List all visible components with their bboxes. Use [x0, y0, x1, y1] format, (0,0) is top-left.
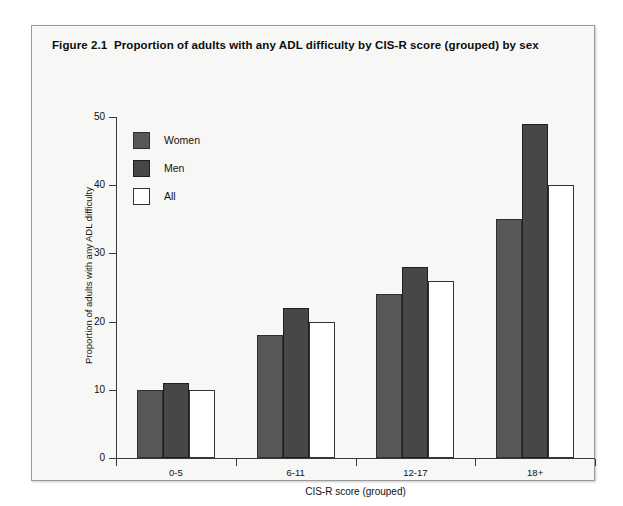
x-axis-category-label: 0-5: [116, 468, 236, 478]
bar-men-0-5: [163, 383, 189, 458]
x-axis-category-label: 12-17: [356, 468, 476, 478]
bar-all-0-5: [189, 390, 215, 458]
legend-label-all: All: [164, 191, 176, 202]
legend-item-all: All: [133, 182, 200, 210]
legend-item-women: Women: [133, 126, 200, 154]
y-axis-tick: [109, 117, 116, 118]
bar-men-18+: [522, 124, 548, 458]
x-axis-tick: [116, 459, 117, 466]
y-axis-tick: [109, 458, 116, 459]
figure-title: Figure 2.1 Proportion of adults with any…: [52, 38, 582, 54]
page-canvas: Figure 2.1 Proportion of adults with any…: [0, 0, 623, 506]
y-axis-line: [116, 117, 117, 459]
legend-swatch-women-icon: [133, 132, 150, 149]
legend-label-women: Women: [164, 135, 200, 146]
y-axis-tick: [109, 322, 116, 323]
bar-women-12-17: [376, 294, 402, 458]
y-axis-tick: [109, 185, 116, 186]
y-axis-title: Proportion of adults with any ADL diffic…: [83, 26, 94, 506]
bar-women-18+: [496, 219, 522, 458]
x-axis-tick: [236, 459, 237, 466]
legend-label-men: Men: [164, 163, 184, 174]
x-axis-tick: [475, 459, 476, 466]
bar-all-18+: [548, 185, 574, 458]
figure-panel: Figure 2.1 Proportion of adults with any…: [31, 25, 595, 481]
x-axis-category-label: 18+: [475, 468, 595, 478]
bar-women-0-5: [137, 390, 163, 458]
bar-all-12-17: [428, 281, 454, 458]
legend-item-men: Men: [133, 154, 200, 182]
bar-women-6-11: [257, 335, 283, 458]
x-axis-title: CIS-R score (grouped): [116, 486, 595, 497]
bar-men-6-11: [283, 308, 309, 458]
legend-swatch-men-icon: [133, 160, 150, 177]
x-axis-tick: [595, 459, 596, 466]
plot-area: 01020304050 0-56-1112-1718+ CIS-R score …: [85, 92, 596, 459]
x-axis-tick: [356, 459, 357, 466]
bar-all-6-11: [309, 322, 335, 458]
figure-caption-text: Proportion of adults with any ADL diffic…: [114, 38, 582, 54]
legend-swatch-all-icon: [133, 188, 150, 205]
y-axis-tick: [109, 253, 116, 254]
y-axis-tick: [109, 390, 116, 391]
bar-men-12-17: [402, 267, 428, 458]
x-axis-category-label: 6-11: [236, 468, 356, 478]
chart-legend: WomenMenAll: [133, 126, 200, 210]
